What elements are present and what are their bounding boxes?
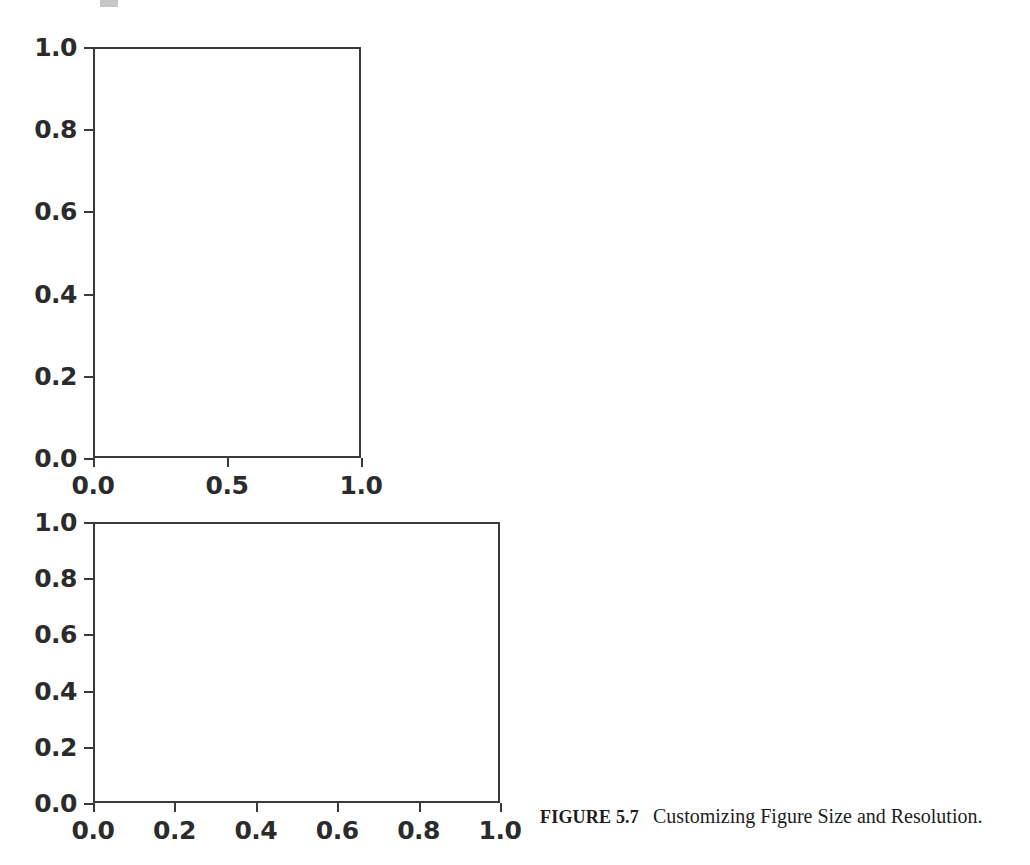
figure-caption-text: Customizing Figure Size and Resolution.: [653, 805, 982, 827]
y-tick-mark: [84, 747, 93, 749]
x-tick-mark: [174, 803, 176, 812]
y-tick-mark: [84, 634, 93, 636]
figure-caption: FIGURE 5.7Customizing Figure Size and Re…: [540, 805, 1030, 828]
y-tick-mark: [84, 294, 93, 296]
x-tick-mark: [227, 458, 229, 467]
x-tick-mark: [500, 803, 502, 812]
y-tick-mark: [84, 376, 93, 378]
y-tick-mark: [84, 47, 93, 49]
upper-plot-axes: 0.00.20.40.60.81.00.00.51.0: [93, 47, 361, 458]
y-tick-label: 1.0: [34, 508, 77, 537]
y-tick-mark: [84, 129, 93, 131]
y-tick-label: 1.0: [34, 33, 77, 62]
x-tick-mark: [361, 458, 363, 467]
x-tick-label: 0.5: [206, 471, 249, 500]
x-tick-mark: [93, 803, 95, 812]
y-tick-mark: [84, 458, 93, 460]
y-tick-label: 0.2: [34, 361, 77, 390]
y-tick-label: 0.8: [34, 564, 77, 593]
lower-plot-axes: 0.00.20.40.60.81.00.00.20.40.60.81.0: [93, 522, 500, 803]
x-tick-mark: [93, 458, 95, 467]
y-tick-mark: [84, 691, 93, 693]
y-tick-mark: [84, 211, 93, 213]
x-tick-mark: [337, 803, 339, 812]
x-tick-mark: [419, 803, 421, 812]
x-tick-label: 0.2: [153, 816, 196, 845]
x-tick-label: 0.6: [316, 816, 359, 845]
y-tick-label: 0.4: [34, 279, 77, 308]
x-tick-label: 0.0: [72, 816, 115, 845]
y-tick-label: 0.0: [34, 789, 77, 818]
figure-page: 0.00.20.40.60.81.00.00.51.0 0.00.20.40.6…: [0, 0, 1030, 865]
y-tick-label: 0.6: [34, 197, 77, 226]
x-tick-label: 0.0: [72, 471, 115, 500]
y-tick-label: 0.0: [34, 444, 77, 473]
y-tick-label: 0.8: [34, 115, 77, 144]
y-tick-label: 0.4: [34, 676, 77, 705]
x-tick-label: 1.0: [479, 816, 522, 845]
y-tick-mark: [84, 578, 93, 580]
x-tick-label: 0.8: [397, 816, 440, 845]
x-tick-mark: [256, 803, 258, 812]
figure-caption-label: FIGURE 5.7: [540, 807, 639, 827]
scan-artifact: [100, 0, 118, 7]
upper-plot-frame: [93, 47, 361, 458]
y-tick-label: 0.2: [34, 732, 77, 761]
x-tick-label: 1.0: [340, 471, 383, 500]
y-tick-label: 0.6: [34, 620, 77, 649]
lower-plot-frame: [93, 522, 500, 803]
y-tick-mark: [84, 522, 93, 524]
y-tick-mark: [84, 803, 93, 805]
x-tick-label: 0.4: [234, 816, 277, 845]
